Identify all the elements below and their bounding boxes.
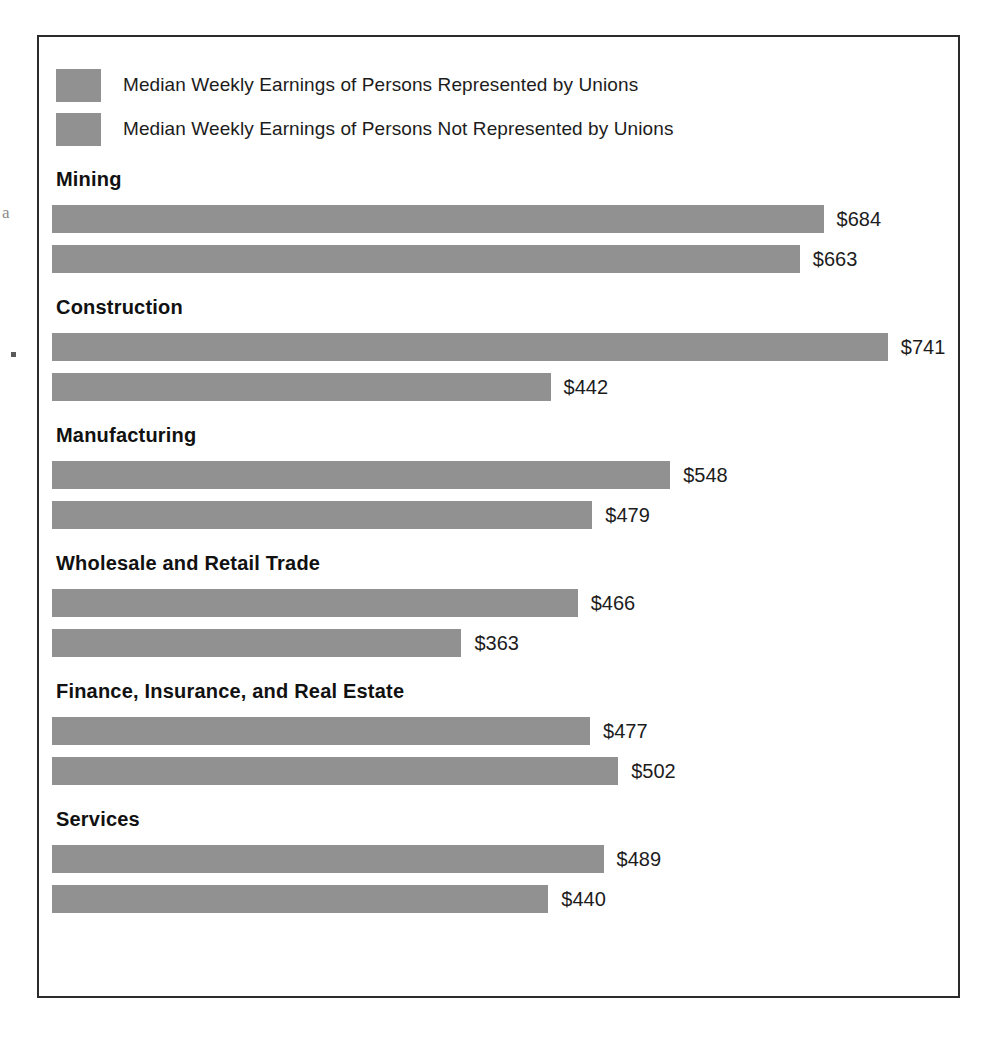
bar-not-represented	[52, 245, 800, 273]
bar-value-label: $363	[474, 633, 519, 653]
bar-row: $741	[52, 333, 958, 361]
bar-row: $440	[52, 885, 958, 913]
bar-row: $489	[52, 845, 958, 873]
bar-not-represented	[52, 885, 548, 913]
category-label: Manufacturing	[56, 424, 196, 447]
bar-represented	[52, 589, 578, 617]
bar-value-label: $502	[631, 761, 676, 781]
bar-represented	[52, 205, 824, 233]
bar-value-label: $440	[561, 889, 606, 909]
category-label: Services	[56, 808, 140, 831]
bar-value-label: $663	[813, 249, 858, 269]
legend-item: Median Weekly Earnings of Persons Repres…	[56, 63, 916, 107]
legend-swatch-not-represented	[56, 113, 101, 146]
scan-artifact-dot	[11, 352, 16, 357]
bar-group: Mining $684 $663	[39, 168, 958, 296]
bar-value-label: $548	[683, 465, 728, 485]
category-label: Wholesale and Retail Trade	[56, 552, 320, 575]
bar-group: Construction $741 $442	[39, 296, 958, 424]
bar-not-represented	[52, 629, 461, 657]
legend-label: Median Weekly Earnings of Persons Not Re…	[123, 118, 674, 140]
bar-represented	[52, 717, 590, 745]
bar-row: $548	[52, 461, 958, 489]
chart-frame: Median Weekly Earnings of Persons Repres…	[37, 35, 960, 998]
legend-swatch-represented	[56, 69, 101, 102]
bar-row: $502	[52, 757, 958, 785]
bar-row: $363	[52, 629, 958, 657]
legend-item: Median Weekly Earnings of Persons Not Re…	[56, 107, 916, 151]
bar-row: $466	[52, 589, 958, 617]
scan-artifact-letter: a	[2, 203, 10, 223]
bar-represented	[52, 333, 888, 361]
bar-row: $442	[52, 373, 958, 401]
bar-group: Services $489 $440	[39, 808, 958, 936]
bar-value-label: $477	[603, 721, 648, 741]
bar-value-label: $442	[564, 377, 609, 397]
bar-row: $477	[52, 717, 958, 745]
bar-row: $663	[52, 245, 958, 273]
bar-groups: Mining $684 $663 Construction $741	[39, 168, 958, 936]
bar-value-label: $741	[901, 337, 946, 357]
bar-not-represented	[52, 501, 592, 529]
bar-value-label: $479	[605, 505, 650, 525]
bar-row: $479	[52, 501, 958, 529]
bar-represented	[52, 845, 604, 873]
bar-value-label: $684	[837, 209, 882, 229]
bar-row: $684	[52, 205, 958, 233]
bar-group: Wholesale and Retail Trade $466 $363	[39, 552, 958, 680]
bar-group: Finance, Insurance, and Real Estate $477…	[39, 680, 958, 808]
bar-not-represented	[52, 373, 551, 401]
category-label: Mining	[56, 168, 122, 191]
plot-area: Median Weekly Earnings of Persons Repres…	[39, 37, 958, 996]
bar-group: Manufacturing $548 $479	[39, 424, 958, 552]
chart-legend: Median Weekly Earnings of Persons Repres…	[56, 63, 916, 151]
bar-represented	[52, 461, 670, 489]
bar-value-label: $466	[591, 593, 636, 613]
category-label: Construction	[56, 296, 183, 319]
legend-label: Median Weekly Earnings of Persons Repres…	[123, 74, 638, 96]
bar-value-label: $489	[617, 849, 662, 869]
bar-not-represented	[52, 757, 618, 785]
category-label: Finance, Insurance, and Real Estate	[56, 680, 404, 703]
